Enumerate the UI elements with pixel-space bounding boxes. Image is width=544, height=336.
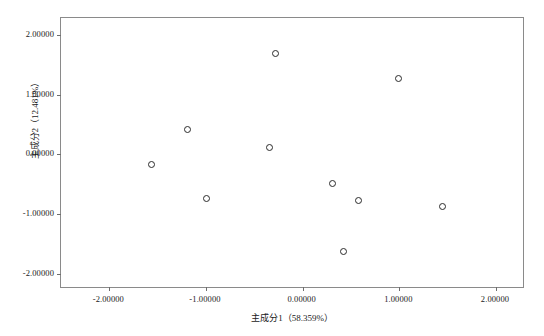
data-point-marker (272, 50, 279, 57)
y-axis-tick (57, 214, 61, 215)
data-point-marker (266, 144, 273, 151)
plot-frame (60, 17, 524, 288)
data-point-marker (395, 75, 402, 82)
x-axis-tick (206, 287, 207, 291)
data-point-marker (203, 195, 210, 202)
data-point-marker (329, 180, 336, 187)
y-axis-tick (57, 35, 61, 36)
y-axis-tick-label: -2.00000 (23, 268, 54, 278)
data-point-marker (184, 126, 191, 133)
y-axis-tick (57, 95, 61, 96)
x-axis-tick-label: 0.00000 (287, 294, 315, 304)
x-axis-tick-label: 1.00000 (384, 294, 412, 304)
data-point-marker (439, 203, 446, 210)
y-axis-tick-label: -1.00000 (23, 208, 54, 218)
x-axis-tick (109, 287, 110, 291)
data-point-marker (340, 248, 347, 255)
y-axis-tick (57, 274, 61, 275)
x-axis-tick-label: -1.00000 (189, 294, 220, 304)
x-axis-tick (399, 287, 400, 291)
x-axis-title: 主成分1（58.359%） (60, 311, 524, 324)
scatter-plot-figure: -2.00000-1.000000.000001.000002.00000 -2… (0, 0, 544, 336)
plot-area (61, 18, 523, 287)
y-axis-tick (57, 154, 61, 155)
x-axis-tick-label: -2.00000 (93, 294, 124, 304)
data-point-marker (355, 197, 362, 204)
x-axis-tick (496, 287, 497, 291)
x-axis-tick (303, 287, 304, 291)
x-axis-tick-label: 2.00000 (481, 294, 509, 304)
data-point-marker (148, 161, 155, 168)
y-axis-title: 主成分2（12.481%） (28, 34, 41, 204)
